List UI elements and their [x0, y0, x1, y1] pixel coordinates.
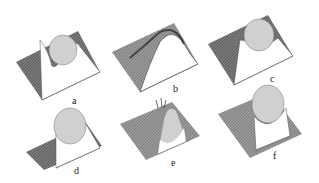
surface-plot-b	[112, 23, 198, 92]
panel-label-b: b	[173, 84, 178, 94]
surface-plot-f	[218, 85, 302, 158]
panel-label-a: a	[72, 96, 76, 106]
panel-label-e: e	[171, 158, 175, 168]
surface-plot-a	[16, 31, 100, 100]
panel-label-f: f	[273, 151, 276, 161]
surface-plot-d	[26, 108, 102, 170]
surface-plot-c	[208, 15, 293, 85]
surface-plots-figure	[0, 0, 319, 183]
panel-label-d: d	[74, 166, 79, 176]
panel-label-c: c	[270, 74, 274, 84]
surface-plot-e	[120, 98, 200, 160]
